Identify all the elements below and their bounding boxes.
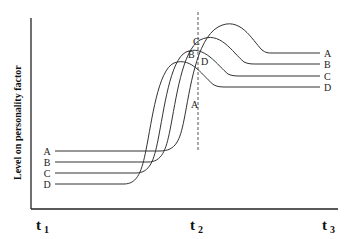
right-label-d: D: [324, 82, 331, 93]
y-axis-label: Level on personality factor: [12, 65, 23, 180]
left-label-a: A: [43, 146, 51, 157]
mid-label-d: D: [201, 56, 208, 67]
right-label-a: A: [324, 48, 332, 59]
curve-c: [55, 50, 320, 173]
left-label-c: C: [44, 168, 51, 179]
mid-label-a: A: [191, 99, 199, 110]
mid-label-b: B: [188, 49, 195, 60]
labels-group: AABBCCDDCBDA: [43, 36, 332, 190]
x-tick-t2: t2: [190, 217, 203, 235]
curves-group: [55, 24, 320, 184]
x-tick-t1: t1: [36, 217, 49, 235]
left-label-d: D: [43, 179, 50, 190]
personality-level-diagram: Level on personality factor AABBCCDDCBDA…: [0, 0, 355, 239]
left-label-b: B: [44, 157, 51, 168]
right-label-b: B: [324, 59, 331, 70]
curve-d: [55, 62, 320, 184]
x-ticks-group: t1t2t3: [36, 217, 335, 235]
mid-label-c: C: [193, 36, 200, 47]
right-label-c: C: [324, 71, 331, 82]
x-tick-t3: t3: [322, 217, 335, 235]
